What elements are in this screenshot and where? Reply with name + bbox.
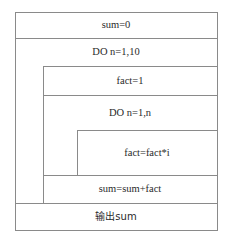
- block-output-text: 输出sum: [95, 212, 136, 222]
- block-fact-mul-text: fact=fact*i: [124, 148, 170, 159]
- block-inner-loop-text: DO n=1,n: [109, 108, 151, 119]
- block-outer-loop-text: DO n=1,10: [92, 47, 139, 58]
- block-init-text: sum=0: [102, 20, 131, 31]
- block-sum-add-text: sum=sum+fact: [99, 184, 162, 195]
- block-fact-init-text: fact=1: [117, 76, 144, 87]
